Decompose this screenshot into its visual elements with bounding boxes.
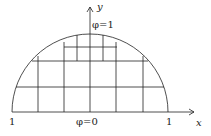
top-boundary-label: φ=1 <box>92 20 114 30</box>
left-tick-label: 1 <box>9 117 15 127</box>
bottom-boundary-label: φ=0 <box>76 117 98 127</box>
x-axis-label: x <box>196 118 202 128</box>
y-axis-label: y <box>97 2 103 12</box>
right-tick-label: 1 <box>166 117 172 127</box>
